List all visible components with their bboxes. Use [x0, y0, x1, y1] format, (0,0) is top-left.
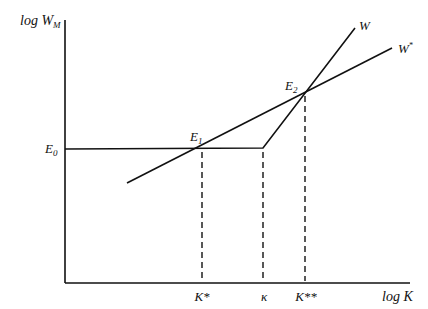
diagram-canvas: log WM W W* E0 E1 E2 K* κ K** log K — [0, 0, 428, 309]
tick-k-star: K* — [193, 289, 210, 304]
tick-kappa: κ — [261, 289, 268, 304]
y-axis-label: log WM — [20, 13, 61, 30]
label-w-star: W* — [398, 41, 413, 56]
tick-k-star-star: K** — [294, 289, 317, 304]
label-e2: E2 — [284, 78, 298, 95]
w-star-line — [127, 48, 392, 183]
label-e1: E1 — [189, 129, 202, 146]
label-e0: E0 — [44, 141, 58, 158]
x-axis-label: log K — [382, 289, 413, 304]
label-w: W — [359, 18, 371, 33]
